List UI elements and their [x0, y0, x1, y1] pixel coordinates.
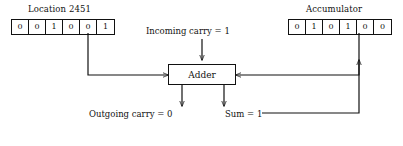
right-register-accumulator: 0 1 0 1 0 0	[288, 19, 392, 35]
bit-cell: 0	[12, 20, 29, 34]
bit-cell: 0	[63, 20, 80, 34]
incoming-carry-label: Incoming carry = 1	[146, 26, 230, 36]
wire-accumulator-to-adder	[236, 33, 359, 75]
adder-block: Adder	[168, 64, 236, 85]
bit-cell: 1	[46, 20, 63, 34]
left-register-location-2451: 0 0 1 0 0 1	[11, 19, 115, 35]
right-register-title: Accumulator	[306, 4, 362, 14]
wire-location-to-adder	[88, 33, 168, 75]
outgoing-carry-label: Outgoing carry = 0	[89, 109, 172, 119]
sum-label: Sum = 1	[225, 109, 262, 119]
wire-sum-feedback-to-accumulator	[262, 60, 359, 113]
bit-cell: 1	[306, 20, 323, 34]
bit-cell: 0	[289, 20, 306, 34]
bit-cell: 0	[29, 20, 46, 34]
bit-cell: 0	[80, 20, 97, 34]
bit-cell: 0	[323, 20, 340, 34]
bit-cell: 1	[97, 20, 114, 34]
bit-cell: 0	[357, 20, 374, 34]
left-register-title: Location 2451	[28, 4, 91, 14]
bit-cell: 1	[340, 20, 357, 34]
adder-datapath-diagram: Location 2451 0 0 1 0 0 1 Accumulator 0 …	[0, 0, 403, 146]
bit-cell: 0	[374, 20, 391, 34]
